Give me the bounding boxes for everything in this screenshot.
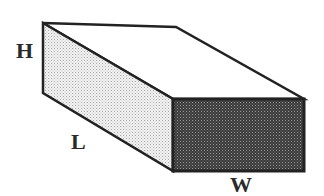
prism-diagram xyxy=(0,0,324,196)
height-label: H xyxy=(16,40,33,62)
length-label: L xyxy=(71,131,86,153)
width-label: W xyxy=(230,174,252,196)
front-face xyxy=(173,99,304,171)
